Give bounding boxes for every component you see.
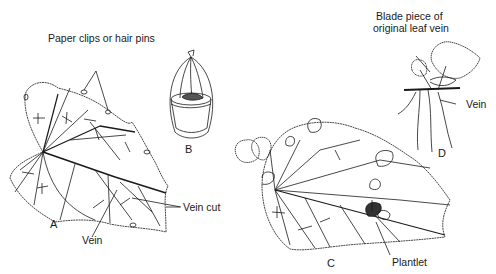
label-vein-a: Vein <box>82 234 102 246</box>
label-blade-piece-line2: original leaf vein <box>373 22 449 34</box>
label-plantlet: Plantlet <box>392 256 427 268</box>
label-vein-d: Vein <box>466 98 486 110</box>
figure-letter-c: C <box>327 257 335 269</box>
figure-letter-b: B <box>185 143 192 155</box>
label-vein-cut: Vein cut <box>183 201 220 213</box>
leaf-propagation-diagram: Paper clips or hair pins Vein cut Vein A… <box>0 0 496 274</box>
pot-b-illustration <box>170 50 213 138</box>
label-paper-clips: Paper clips or hair pins <box>48 32 155 44</box>
label-blade-piece-line1: Blade piece of <box>376 10 443 22</box>
leaf-a-illustration <box>10 71 181 237</box>
cutting-d-illustration <box>398 42 480 152</box>
figure-letter-d: D <box>438 147 446 159</box>
figure-letter-a: A <box>50 218 57 230</box>
